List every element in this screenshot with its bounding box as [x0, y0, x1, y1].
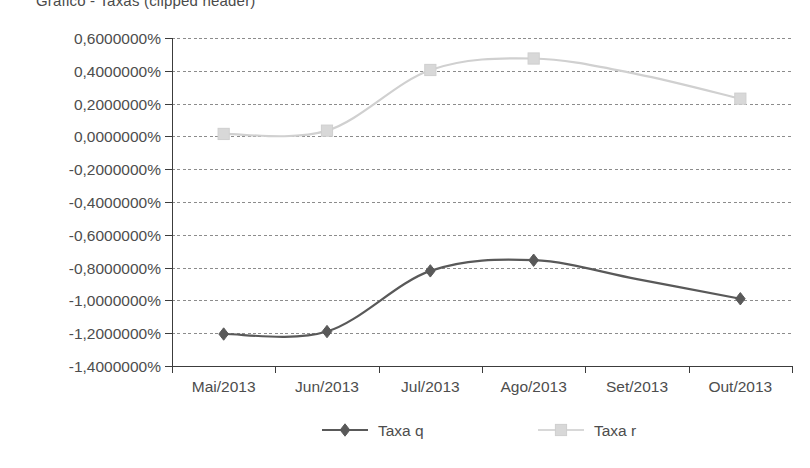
- ytick-labels-group: 0,6000000%0,4000000%0,2000000%0,0000000%…: [69, 30, 161, 375]
- y-axis-tick-label: -0,8000000%: [69, 260, 161, 277]
- y-axis-tick-label: 0,2000000%: [74, 96, 161, 113]
- y-axis-tick-label: -1,4000000%: [69, 358, 161, 375]
- chart-svg: 0,6000000%0,4000000%0,2000000%0,0000000%…: [0, 0, 810, 468]
- data-point-marker: [529, 254, 539, 266]
- data-point-marker: [735, 93, 746, 104]
- y-axis-tick-label: 0,4000000%: [74, 63, 161, 80]
- y-axis-tick-label: -1,0000000%: [69, 292, 161, 309]
- markers-group: [218, 53, 746, 340]
- x-axis-tick-label: Jul/2013: [401, 378, 460, 395]
- data-point-marker: [735, 293, 745, 305]
- x-axis-tick-label: Jun/2013: [295, 378, 359, 395]
- x-axis-tick-label: Set/2013: [606, 378, 668, 395]
- series-line-taxa-r: [224, 58, 741, 136]
- data-point-marker: [219, 328, 229, 340]
- y-axis-tick-label: -0,6000000%: [69, 227, 161, 244]
- data-point-marker: [528, 53, 539, 64]
- data-point-marker: [321, 125, 332, 136]
- legend-label: Taxa r: [594, 422, 636, 439]
- x-axis-tick-label: Out/2013: [708, 378, 772, 395]
- x-axis-tick-label: Mai/2013: [192, 378, 256, 395]
- y-axis-tick-label: -0,4000000%: [69, 194, 161, 211]
- legend-marker: [340, 424, 350, 436]
- data-point-marker: [425, 64, 436, 75]
- data-point-marker: [218, 128, 229, 139]
- plot-area: 0,6000000%0,4000000%0,2000000%0,0000000%…: [0, 0, 810, 468]
- xtick-labels-group: Mai/2013Jun/2013Jul/2013Ago/2013Set/2013…: [192, 378, 772, 395]
- chart-container: Gráfico - Taxas (clipped header) 0,60000…: [0, 0, 810, 468]
- y-axis-tick-label: -0,2000000%: [69, 161, 161, 178]
- series-line-taxa-q: [224, 260, 741, 337]
- data-point-marker: [322, 325, 332, 337]
- x-axis-tick-label: Ago/2013: [500, 378, 566, 395]
- series-group: [224, 58, 741, 337]
- legend-label: Taxa q: [378, 422, 424, 439]
- data-point-marker: [425, 265, 435, 277]
- y-axis-tick-label: -1,2000000%: [69, 325, 161, 342]
- legend-marker: [555, 424, 566, 435]
- legend-group: Taxa qTaxa r: [322, 422, 636, 439]
- y-axis-tick-label: 0,6000000%: [74, 30, 161, 47]
- y-axis-tick-label: 0,0000000%: [74, 128, 161, 145]
